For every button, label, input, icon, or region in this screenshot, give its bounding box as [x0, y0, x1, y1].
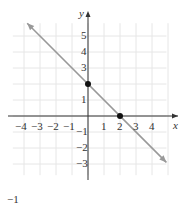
- x-tick-label: −4: [15, 121, 27, 132]
- y-tick-label: −2: [76, 142, 88, 153]
- x-axis-label: x: [173, 120, 178, 131]
- caption: −1: [7, 194, 19, 205]
- x-tick-label: −1: [63, 121, 75, 132]
- x-tick-label: 4: [149, 121, 155, 132]
- x-tick-label: −3: [31, 121, 43, 132]
- y-tick-label: 1: [81, 94, 87, 105]
- intercept-point: [117, 113, 123, 119]
- y-tick-label: 3: [81, 62, 87, 73]
- x-tick-label: 3: [133, 121, 139, 132]
- x-tick-label: 2: [117, 121, 123, 132]
- intercept-point: [85, 81, 91, 87]
- y-tick-label: −3: [76, 158, 88, 169]
- y-tick-label: 4: [81, 46, 87, 57]
- y-axis-label: y: [79, 8, 84, 19]
- x-tick-label: −2: [47, 121, 59, 132]
- x-tick-label: 1: [101, 121, 107, 132]
- coordinate-plane: [0, 0, 185, 207]
- y-tick-label: 5: [81, 30, 87, 41]
- y-tick-label: −1: [76, 126, 88, 137]
